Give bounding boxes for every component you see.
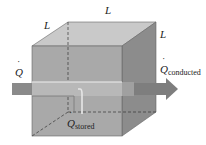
heat-out-arrow-shaft [134, 83, 168, 95]
edge-label-left: L [44, 20, 50, 31]
heat-in-arrow [12, 83, 32, 95]
q-conducted-symbol: Q [160, 64, 168, 75]
edge-label-right: L [160, 29, 166, 40]
q-conducted-subscript: conducted [168, 68, 201, 77]
heat-flow-band [32, 82, 122, 96]
q-stored-symbol: Q [67, 118, 75, 129]
q-in-symbol: Q [15, 67, 23, 78]
q-stored-label: Qstored [67, 118, 95, 129]
q-conducted-label: Qconducted [160, 64, 201, 75]
q-stored-subscript: stored [75, 122, 95, 131]
heat-out-arrowhead [166, 78, 178, 100]
q-in-label: Q [15, 67, 23, 78]
edge-label-top: L [105, 5, 111, 16]
